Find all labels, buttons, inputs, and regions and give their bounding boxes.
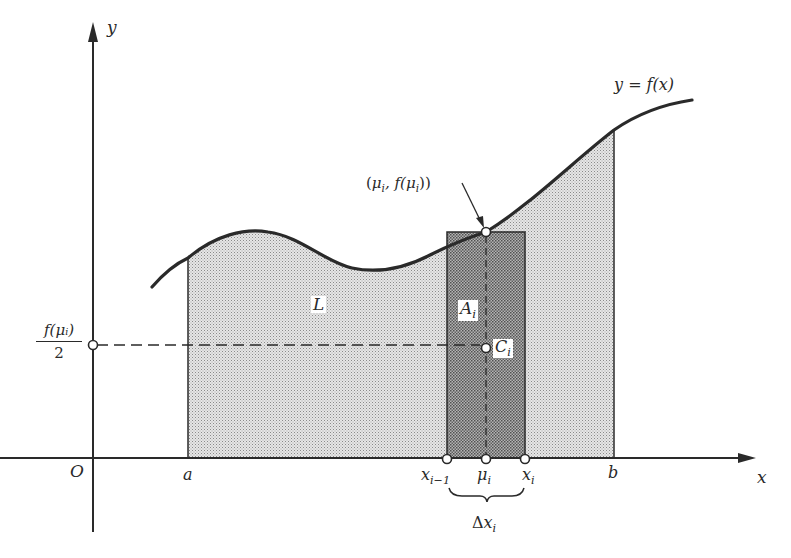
pointer-arrow-icon bbox=[476, 216, 484, 228]
marker-x-i bbox=[521, 455, 530, 464]
pointer-arrow bbox=[462, 183, 484, 228]
y-marker-half-f-mu: f(μᵢ) 2 bbox=[36, 323, 82, 361]
delta-x-brace bbox=[449, 488, 524, 502]
region-label-A-i: Ai bbox=[458, 300, 478, 321]
area-region-L bbox=[188, 100, 614, 458]
marker-centroid-C-i bbox=[482, 344, 491, 353]
delta-x-i-label: Δxi bbox=[472, 515, 496, 534]
x-axis-arrow-icon bbox=[738, 453, 756, 463]
y-axis-arrow-icon bbox=[88, 22, 98, 42]
tick-label-x-i: xi bbox=[522, 467, 535, 486]
curve-label: y = f(x) bbox=[614, 77, 674, 93]
region-label-L: L bbox=[311, 296, 326, 313]
tick-label-b: b bbox=[608, 465, 618, 481]
point-label-mu-f-mu: (μi, f(μi)) bbox=[366, 176, 431, 193]
marker-mu-i bbox=[482, 455, 491, 464]
tick-label-a: a bbox=[183, 467, 193, 483]
y-axis-label: y bbox=[107, 19, 117, 36]
centroid-label-C-i: Ci bbox=[493, 339, 513, 358]
tick-label-x-i-minus-1: xi−1 bbox=[421, 467, 450, 486]
tick-label-mu-i: μi bbox=[477, 467, 491, 486]
marker-x-i-minus-1 bbox=[443, 455, 452, 464]
x-axis-label: x bbox=[757, 469, 767, 486]
marker-half-height bbox=[89, 341, 98, 350]
origin-label: O bbox=[70, 463, 84, 480]
y-axis bbox=[88, 22, 98, 532]
marker-point-on-curve bbox=[482, 228, 491, 237]
